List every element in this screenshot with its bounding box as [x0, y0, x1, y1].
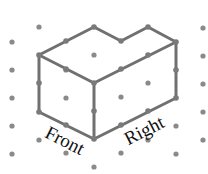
isometric-figure: Front Right [0, 0, 208, 174]
grid-dot [173, 151, 178, 156]
grid-dot [36, 24, 41, 29]
grid-dot [118, 150, 123, 155]
grid-dot [9, 151, 14, 156]
grid-dot [200, 53, 205, 58]
figure-vertex [91, 80, 97, 86]
figure-vertex [118, 38, 124, 44]
figure-vertex [36, 52, 42, 58]
grid-dot [9, 95, 14, 100]
grid-dot [9, 39, 14, 44]
figure-vertex [118, 66, 124, 72]
grid-dot [36, 137, 41, 142]
figure-vertex [91, 24, 97, 30]
figure-edge [94, 27, 121, 41]
grid-dot [9, 67, 14, 72]
figure-edge [121, 27, 148, 41]
grid-dot [173, 123, 178, 128]
figure-vertex [145, 108, 151, 114]
grid-dot [91, 164, 96, 169]
figure-edge [94, 42, 176, 83]
figure-vertex [63, 38, 69, 44]
grid-dot [200, 25, 205, 30]
grid-dot [9, 123, 14, 128]
right-face-label: Right [120, 111, 168, 149]
grid-dot [145, 80, 150, 85]
figure-vertex [91, 136, 97, 142]
grid-dot [91, 52, 96, 57]
figure-vertex [173, 95, 179, 101]
figure-vertex [63, 66, 69, 72]
figure-vertex [145, 24, 151, 30]
figure-vertex [91, 108, 97, 114]
grid-dot [118, 94, 123, 99]
figure-vertex [173, 67, 179, 73]
grid-dot [200, 137, 205, 142]
grid-dot [200, 81, 205, 86]
figure-vertex [36, 80, 42, 86]
grid-dot [200, 109, 205, 114]
figure-edge [148, 27, 176, 42]
figure-vertex [173, 39, 179, 45]
figure-vertex [145, 52, 151, 58]
grid-dot [63, 95, 68, 100]
figure-vertex [118, 122, 124, 128]
figure-vertex [36, 109, 42, 115]
